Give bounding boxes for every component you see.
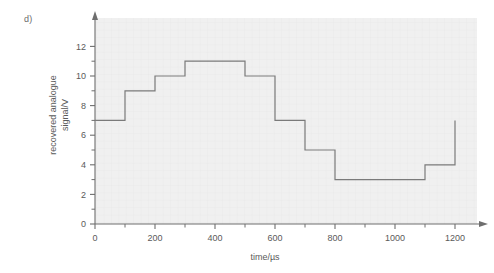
x-axis-arrow bbox=[479, 221, 488, 227]
y-axis-label-line2: signal/V bbox=[59, 99, 69, 131]
x-tick-label: 200 bbox=[147, 233, 162, 243]
y-tick-label: 4 bbox=[81, 160, 86, 170]
x-tick-label: 800 bbox=[327, 233, 342, 243]
panel-label: d) bbox=[24, 14, 32, 24]
x-tick-label: 600 bbox=[267, 233, 282, 243]
x-tick-label: 400 bbox=[207, 233, 222, 243]
step-plot: 024681012 020040060080010001200 bbox=[0, 0, 494, 273]
y-tick-label: 6 bbox=[81, 130, 86, 140]
x-tick-label: 1200 bbox=[445, 233, 465, 243]
x-tick-label: 0 bbox=[92, 233, 97, 243]
y-axis-label-text: recovered analogue signal/V bbox=[48, 75, 71, 155]
y-tick-label: 10 bbox=[76, 71, 86, 81]
y-axis-label: recovered analogue signal/V bbox=[52, 60, 66, 170]
y-tick-label: 0 bbox=[81, 219, 86, 229]
x-tick-label: 1000 bbox=[385, 233, 405, 243]
y-tick-label: 2 bbox=[81, 190, 86, 200]
x-axis-label-text: time/µs bbox=[250, 252, 279, 262]
x-axis-label: time/µs bbox=[0, 252, 494, 262]
y-tick-label: 12 bbox=[76, 42, 86, 52]
x-axis-ticks: 020040060080010001200 bbox=[92, 224, 465, 243]
y-axis-label-line1: recovered analogue bbox=[48, 75, 58, 155]
figure-panel-d: d) recovered analogue signal/V time/µs 0… bbox=[0, 0, 494, 273]
y-axis-arrow bbox=[92, 11, 98, 20]
y-axis-ticks: 024681012 bbox=[76, 42, 95, 230]
y-tick-label: 8 bbox=[81, 101, 86, 111]
